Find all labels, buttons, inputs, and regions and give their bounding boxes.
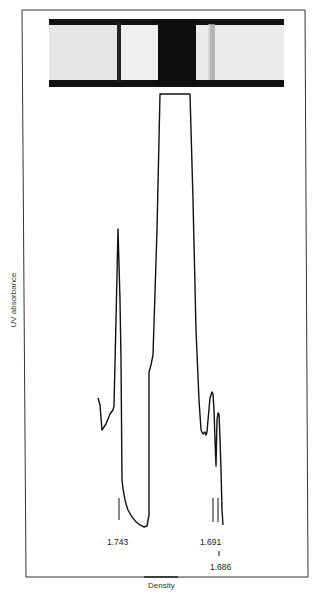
gel-image [49,19,284,87]
y-axis-label: UV absorbance [3,250,23,350]
marker-label-1686: 1.686 [210,562,231,572]
gel-band-sharp [117,22,121,82]
x-axis-label: Density [148,581,175,590]
gel-band-main [158,19,196,87]
frame [22,10,308,577]
figure: UV absorbance 1.743 1.691 1.686 Density [0,0,320,601]
gel-band-faint [210,24,215,80]
marker-label-1691: 1.691 [200,537,221,547]
figure-svg [0,0,320,601]
y-axis-label-text: UV absorbance [9,272,18,327]
marker-label-1743: 1.743 [107,537,128,547]
absorbance-trace [98,94,223,527]
